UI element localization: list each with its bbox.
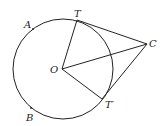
label-A: A xyxy=(23,19,31,30)
tangent-CT xyxy=(77,20,147,44)
point-B xyxy=(30,107,32,109)
radius-OT-prime xyxy=(62,69,102,99)
label-C: C xyxy=(149,38,157,49)
segment-OC xyxy=(62,44,147,69)
point-A xyxy=(32,28,34,30)
label-T-prime: T′ xyxy=(105,99,115,110)
label-B: B xyxy=(25,112,33,123)
label-T: T xyxy=(74,8,82,19)
geometry-diagram: A T C O T′ B xyxy=(0,0,166,126)
tangent-CT-prime xyxy=(102,44,147,99)
label-O: O xyxy=(50,64,58,75)
radius-OT xyxy=(62,20,77,69)
